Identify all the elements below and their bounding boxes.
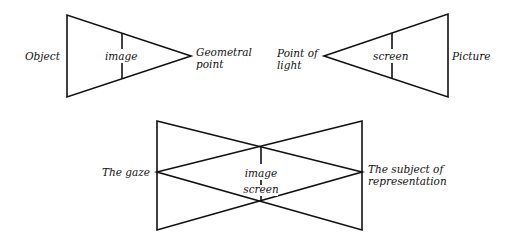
screen-label: screen — [373, 50, 408, 62]
subject-of-representation-label-line2: representation — [368, 175, 447, 187]
point-of-light-label-line2: light — [277, 59, 301, 71]
object-label: Object — [25, 50, 60, 62]
subject-of-representation-label-line1: The subject of — [368, 163, 443, 175]
diagram-canvas — [0, 0, 511, 249]
geometral-point-label-line1: Geometral — [196, 46, 252, 58]
center-screen-label: screen — [241, 183, 281, 195]
center-image-label: image — [241, 167, 281, 179]
geometral-point-label-line2: point — [196, 58, 223, 70]
point-of-light-label-line1: Point of — [277, 47, 318, 59]
image-label: image — [105, 50, 138, 62]
the-gaze-label: The gaze — [102, 166, 150, 178]
picture-label: Picture — [452, 50, 491, 62]
